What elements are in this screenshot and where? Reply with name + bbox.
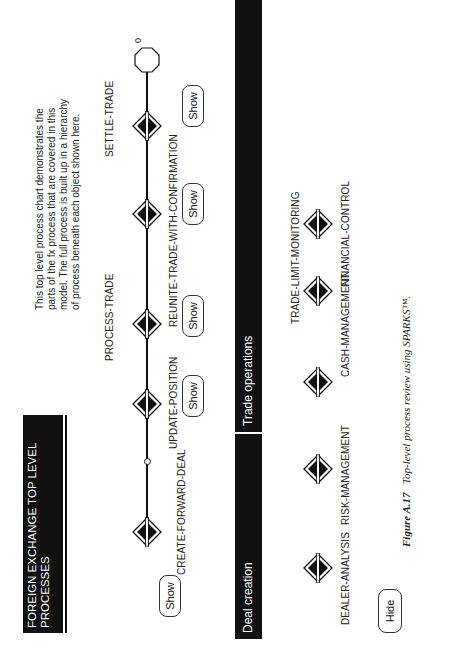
process-label-dealer-analysis: DEALER-ANALYSIS — [340, 532, 351, 625]
process-label-financial-control: FINANCIAL-CONTROL — [340, 181, 351, 287]
process-label-update-position: UPDATE-POSITION — [168, 357, 179, 449]
process-label-settle-trade: SETTLE-TRADE — [104, 81, 115, 157]
process-label-reunite-trade-with-confirmation: REUNITE-TRADE-WITH-CONFIRMATION — [168, 134, 179, 327]
caption-text: Top-level process review using SPARKS™. — [400, 296, 412, 484]
show-button-reunite-trade[interactable]: Show — [182, 183, 204, 225]
octagon-end-icon — [133, 46, 161, 74]
diamond-process-icon[interactable] — [303, 367, 333, 397]
show-button-create-forward-deal[interactable]: Show — [159, 575, 181, 617]
diagram-title: FOREIGN EXCHANGE TOP LEVEL PROCESSES — [23, 415, 65, 633]
diamond-process-icon[interactable] — [132, 389, 162, 419]
figure-number: Figure A.17 — [400, 492, 412, 547]
diamond-process-icon[interactable] — [303, 209, 333, 239]
process-label-process-trade: PROCESS-TRADE — [104, 274, 115, 361]
end-node-label: 0 — [133, 38, 143, 43]
diagram-canvas: FOREIGN EXCHANGE TOP LEVEL PROCESSES Thi… — [0, 0, 457, 667]
diamond-process-icon[interactable] — [132, 517, 162, 547]
show-button-update-position[interactable]: Show — [182, 375, 204, 417]
show-button-settle-trade[interactable]: Show — [182, 85, 204, 127]
figure-caption: Figure A.17 Top-level process review usi… — [400, 296, 412, 547]
section-bar-deal-creation: Deal creation — [235, 434, 262, 639]
hide-button[interactable]: Hide — [378, 589, 402, 633]
diamond-process-icon[interactable] — [132, 199, 162, 229]
process-label-risk-management: RISK-MANAGEMENT — [340, 425, 351, 525]
diamond-process-icon[interactable] — [132, 309, 162, 339]
diamond-process-icon[interactable] — [132, 111, 162, 141]
process-label-trade-limit-monitoring: TRADE-LIMIT-MONITORING — [290, 191, 301, 324]
diamond-process-icon[interactable] — [303, 553, 333, 583]
process-label-create-forward-deal: CREATE-FORWARD-DEAL — [176, 449, 187, 575]
diamond-process-icon[interactable] — [303, 454, 333, 484]
small-circle-junction-icon — [144, 459, 151, 466]
section-bar-trade-operations: Trade operations — [235, 0, 262, 433]
description-text: This top level process chart demonstrate… — [34, 90, 82, 310]
diamond-process-icon[interactable] — [303, 276, 333, 306]
process-label-cash-management: CASH-MANAGEMENT — [340, 273, 351, 377]
show-button-process-trade[interactable]: Show — [182, 295, 204, 337]
